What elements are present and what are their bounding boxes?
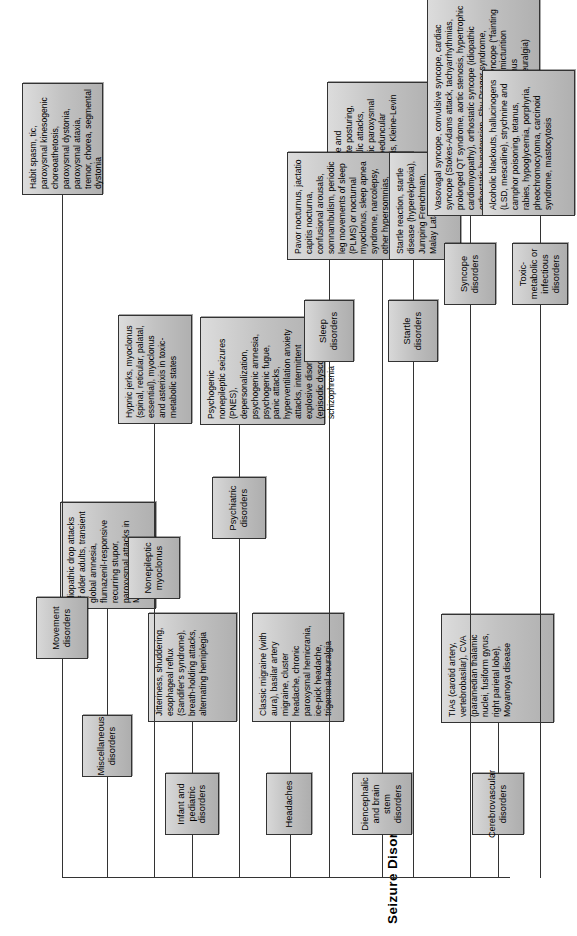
connector-startle: [413, 361, 414, 878]
category-toxic-metabolic-disorders[interactable]: Toxic-metabolic or infectious disorders: [512, 243, 568, 305]
connector-syncope: [470, 304, 471, 878]
category-headaches[interactable]: Headaches: [266, 773, 312, 835]
examples-infant-pediatric[interactable]: Jitteriness, shuddering, esophageal refl…: [148, 613, 237, 722]
connector-movement-examples: [62, 194, 63, 598]
connector-cerebrovascular: [498, 834, 499, 878]
examples-toxic-metabolic[interactable]: Alcoholic blackouts, hallucinogens (LSD,…: [482, 70, 575, 216]
connector-myoclonus-examples: [154, 423, 155, 538]
connector-headaches-examples: [290, 721, 291, 774]
connector-sleep: [329, 361, 330, 878]
connector-psychiatric-examples: [239, 424, 240, 478]
examples-movement[interactable]: Habit spasm, tic, paroxysmal kinesogenic…: [22, 83, 103, 195]
category-syncope-disorders[interactable]: Syncope disorders: [444, 243, 496, 305]
category-cerebrovascular-disorders[interactable]: Cerebrovascular disorders: [472, 773, 524, 835]
connector-movement: [62, 658, 63, 878]
connector-miscellaneous: [107, 776, 108, 878]
connector-diencephalic: [382, 834, 383, 878]
diagram-canvas: Seizure Disorders Cerebrovascular disord…: [0, 0, 577, 936]
connector-miscellaneous-examples: [107, 608, 108, 716]
connector-headaches: [290, 834, 291, 878]
connector-psychiatric: [239, 538, 240, 878]
connector-cerebrovascular-examples: [498, 722, 499, 774]
examples-nonepileptic-myoclonus[interactable]: Hypnic jerks, myoclonus (spinal, reticul…: [118, 315, 192, 424]
category-nonepileptic-myoclonus[interactable]: Nonepileptic myoclonus: [128, 537, 180, 599]
category-movement-disorders[interactable]: Movement disorders: [36, 597, 88, 659]
connector-diencephalic-examples: [382, 196, 383, 774]
category-startle-disorders[interactable]: Startle disorders: [388, 300, 438, 362]
category-infant-pediatric-disorders[interactable]: Infant and pediatric disorders: [165, 773, 219, 835]
connector-startle-examples: [413, 259, 414, 301]
category-psychiatric-disorders[interactable]: Psychiatric disorders: [212, 477, 266, 539]
category-sleep-disorders[interactable]: Sleep disorders: [304, 300, 354, 362]
connector-nonepileptic-myoclonus: [154, 598, 155, 878]
connector-syncope-examples: [470, 214, 471, 244]
examples-cerebrovascular[interactable]: TIAs (carotid artery, vertebrobasilar), …: [441, 614, 554, 723]
connector-toxic-metabolic: [540, 304, 541, 878]
connector-infant-pediatric: [192, 834, 193, 878]
category-miscellaneous-disorders[interactable]: Miscellaneous disorders: [82, 715, 132, 777]
category-diencephalic-brainstem-disorders[interactable]: Diencephalic and brain stem disorders: [352, 773, 412, 835]
trunk-spine: [62, 877, 510, 878]
connector-toxic-examples: [540, 214, 541, 244]
connector-sleep-examples: [329, 259, 330, 301]
connector-infant-examples: [192, 721, 193, 774]
